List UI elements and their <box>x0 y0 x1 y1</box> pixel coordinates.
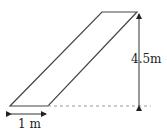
height-label: 4.5m <box>131 52 162 66</box>
diagram-canvas: 4.5m 1 m <box>0 0 167 132</box>
parallelogram-shape <box>10 12 137 106</box>
base-label: 1 m <box>18 117 41 131</box>
